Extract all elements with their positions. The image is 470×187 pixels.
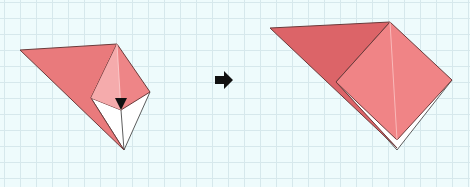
diagram-canvas: [0, 0, 470, 187]
origami-diagram: [0, 0, 470, 187]
right-arrow-icon: [215, 71, 233, 89]
step-after: [270, 22, 452, 150]
step-before: [20, 44, 150, 150]
